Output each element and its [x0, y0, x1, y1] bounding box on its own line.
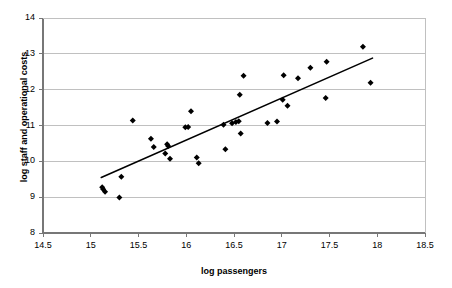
data-point-marker	[307, 65, 313, 71]
data-point-marker	[116, 195, 122, 201]
trend-line	[101, 58, 372, 177]
data-point-marker	[188, 108, 194, 114]
data-point-marker	[148, 136, 154, 142]
data-point-marker	[222, 146, 228, 152]
data-point-marker	[280, 97, 286, 103]
data-point-marker	[274, 119, 280, 125]
data-point-marker	[194, 154, 200, 160]
data-point-marker	[118, 174, 124, 180]
gridlines	[43, 18, 425, 233]
data-point-marker	[151, 144, 157, 150]
data-point-marker	[323, 95, 329, 101]
data-point-marker	[360, 44, 366, 50]
data-point-marker	[324, 59, 330, 65]
data-point-marker	[281, 72, 287, 78]
data-point-marker	[237, 92, 243, 98]
trend-line-segment	[101, 58, 372, 177]
plot-area	[0, 0, 452, 288]
scatter-chart-figure: log staff and operational costs log pass…	[0, 0, 452, 288]
data-point-marker	[238, 130, 244, 136]
data-point-marker	[368, 80, 374, 86]
data-points	[99, 44, 373, 201]
axis-ticks	[39, 18, 425, 237]
data-point-marker	[162, 150, 168, 156]
data-point-marker	[241, 73, 247, 79]
data-point-marker	[295, 75, 301, 81]
data-point-marker	[130, 117, 136, 123]
data-point-marker	[284, 103, 290, 109]
